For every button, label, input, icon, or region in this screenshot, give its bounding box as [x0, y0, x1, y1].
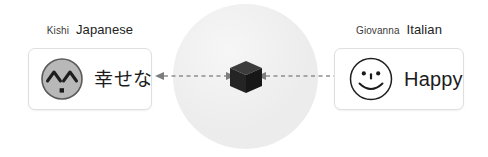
speaker-group-left: Kishi Japanese 幸せな [28, 22, 152, 110]
happy-caret-eyes-face-icon [40, 57, 84, 101]
speaker-group-right: Giovanna Italian Happy [334, 22, 464, 110]
speaker-name-left: Kishi [47, 25, 69, 36]
right-link-arrow [257, 68, 343, 84]
speaker-header-left: Kishi Japanese [28, 22, 152, 39]
expression-card-right: Happy [334, 48, 464, 110]
speaker-language-right: Italian [407, 22, 442, 37]
diagram-canvas: Kishi Japanese 幸せな Giovanna Italian [0, 0, 488, 157]
expression-card-left: 幸せな [28, 48, 152, 110]
expression-text-left: 幸せな [94, 70, 153, 89]
expression-text-right: Happy [404, 69, 463, 89]
left-link-arrow [155, 68, 235, 84]
speaker-header-right: Giovanna Italian [334, 22, 464, 39]
speaker-name-right: Giovanna [356, 25, 400, 36]
smiley-face-icon [348, 56, 394, 102]
concept-cube-icon [228, 60, 264, 98]
speaker-language-left: Japanese [76, 22, 133, 37]
